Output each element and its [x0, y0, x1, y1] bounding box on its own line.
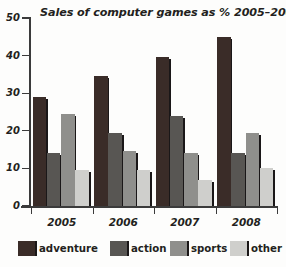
legend-label-adventure: adventure — [39, 243, 98, 254]
bar-adventure-2008 — [217, 37, 231, 206]
bar-other-2008 — [260, 168, 274, 206]
legend-swatch-adventure — [18, 241, 35, 256]
legend-label-action: action — [131, 243, 167, 254]
legend-swatch-shadow — [127, 241, 129, 256]
legend-swatch-action — [110, 241, 127, 256]
legend-label-other: other — [251, 243, 282, 254]
legend-swatch-sports — [170, 241, 187, 256]
legend-swatch-shadow — [187, 241, 189, 256]
bar-chart: Sales of computer games as % 2005–2008 0… — [0, 0, 286, 267]
chart-legend: adventureactionsportsother — [18, 240, 278, 262]
legend-label-sports: sports — [191, 243, 227, 254]
legend-swatch-other — [230, 241, 247, 256]
bar-group-2008 — [0, 0, 286, 267]
bar-shadow — [273, 170, 275, 206]
legend-swatch-shadow — [35, 241, 37, 256]
bar-action-2008 — [231, 153, 245, 206]
bar-sports-2008 — [246, 133, 260, 206]
legend-swatch-shadow — [247, 241, 249, 256]
